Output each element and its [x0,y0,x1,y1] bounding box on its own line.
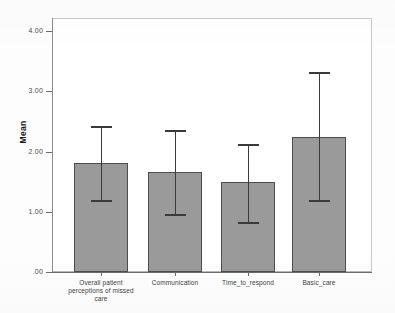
x-category-label-line: Basic_care [277,279,361,287]
y-tick-label: 4.00 [29,27,43,35]
y-tick-label: 1.00 [29,208,43,216]
y-axis-line [52,18,53,272]
y-axis-title: Mean [18,121,28,144]
x-tick-mark [101,272,102,276]
y-tick-mark [46,31,52,32]
y-tick-mark [46,272,52,273]
error-bar-cap-upper [238,144,259,146]
error-bar-stem [175,131,176,215]
x-axis-line [52,272,372,273]
bar-chart-figure: Mean 4.003.002.001.00.00 Overall patient… [0,0,395,313]
error-bar-cap-upper [165,130,186,132]
x-tick-mark [175,272,176,276]
y-tick-label: 3.00 [29,87,43,95]
error-bar-stem [101,127,102,201]
x-category-label: Communication [133,279,217,287]
x-category-label-line: care [59,295,143,303]
y-tick-mark [46,152,52,153]
error-bar-cap-upper [91,126,112,128]
y-tick-label: .00 [33,268,43,276]
x-category-label-line: Overall patient [59,279,143,287]
error-bar-cap-lower [309,200,330,202]
error-bar-cap-upper [309,72,330,74]
x-tick-mark [319,272,320,276]
error-bar-cap-lower [165,214,186,216]
x-category-label: Basic_care [277,279,361,287]
x-tick-mark [248,272,249,276]
error-bar-stem [248,145,249,223]
x-category-label-line: Communication [133,279,217,287]
x-category-label-line: perceptions of missed [59,287,143,295]
error-bar-cap-lower [91,200,112,202]
error-bar-cap-lower [238,222,259,224]
error-bar-stem [319,73,320,201]
x-category-label: Overall patientperceptions of missedcare [59,279,143,303]
y-tick-mark [46,212,52,213]
y-tick-mark [46,91,52,92]
y-tick-label: 2.00 [29,148,43,156]
